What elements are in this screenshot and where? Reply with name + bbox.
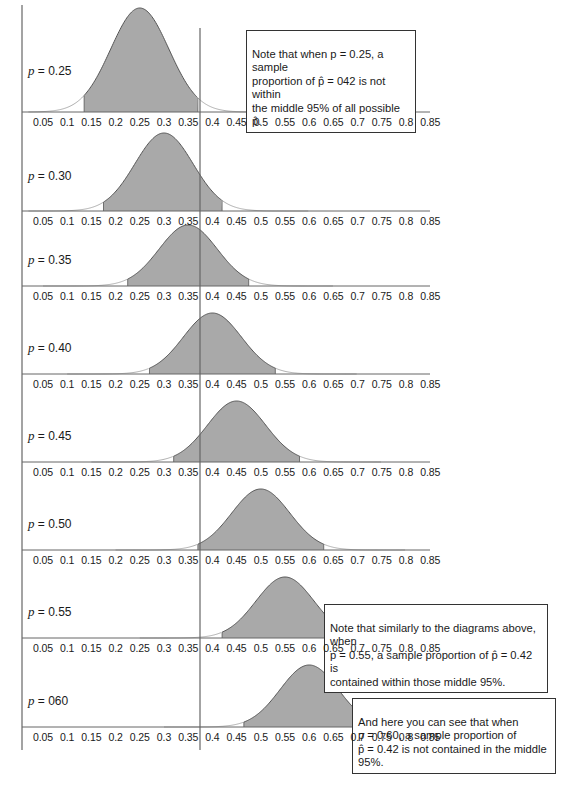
- axis-tick-label: 0.75: [372, 290, 392, 302]
- panel-label: p = 0.25: [28, 63, 72, 79]
- axis-tick-label: 0.05: [33, 378, 53, 390]
- axis-tick-label: 0.3: [157, 554, 171, 566]
- axis-tick-label: 0.2: [108, 290, 122, 302]
- axis-tick-label: 0.3: [157, 466, 171, 478]
- axis-tick-label: 0.15: [81, 215, 101, 227]
- axis-tick-label: 0.3: [157, 290, 171, 302]
- axis-tick-label: 0.6: [302, 642, 316, 654]
- shaded-middle-95-region: [128, 225, 249, 286]
- axis-tick-label: 0.75: [372, 466, 392, 478]
- axis-tick-label: 0.25: [130, 642, 150, 654]
- axis-tick-label: 0.5: [254, 554, 268, 566]
- axis-tick-label: 0.25: [130, 290, 150, 302]
- axis-tick-label: 0.35: [178, 466, 198, 478]
- panel-label: p = 0.55: [28, 604, 72, 620]
- axis-tick-label: 0.6: [302, 731, 316, 743]
- axis-tick-label: 0.75: [372, 554, 392, 566]
- axis-tick-label: 0.55: [275, 215, 295, 227]
- panel-label: p = 060: [28, 693, 68, 709]
- axis-tick-label: 0.55: [275, 642, 295, 654]
- axis-tick-label: 0.6: [302, 466, 316, 478]
- axis-tick-label: 0.7: [350, 378, 364, 390]
- axis-tick-label: 0.5: [254, 731, 268, 743]
- panel-label: p = 0.45: [28, 428, 72, 444]
- axis-tick-label: 0.85: [420, 378, 440, 390]
- axis-tick-label: 0.65: [323, 466, 343, 478]
- curve-right-tail: [324, 544, 405, 550]
- shaded-middle-95-region: [174, 401, 300, 462]
- axis-tick-label: 0.6: [302, 290, 316, 302]
- axis-tick-label: 0.85: [420, 642, 440, 654]
- curve-right-tail: [275, 368, 356, 374]
- axis-tick-label: 0.05: [33, 466, 53, 478]
- axis-tick-label: 0.45: [227, 215, 247, 227]
- axis-tick-label: 0.5: [254, 116, 268, 128]
- axis-tick-label: 0.2: [108, 731, 122, 743]
- axis-tick-label: 0.55: [275, 731, 295, 743]
- axis-tick-label: 0.35: [178, 731, 198, 743]
- axis-tick-label: 0.8: [399, 642, 413, 654]
- axis-tick-label: 0.75: [372, 116, 392, 128]
- axis-tick-label: 0.4: [205, 554, 219, 566]
- axis-tick-label: 0.5: [254, 642, 268, 654]
- axis-tick-label: 0.2: [108, 116, 122, 128]
- axis-tick-label: 0.35: [178, 642, 198, 654]
- axis-tick-label: 0.1: [60, 215, 74, 227]
- axis-tick-label: 0.7: [350, 642, 364, 654]
- axis-tick-label: 0.15: [81, 116, 101, 128]
- curve-right-tail: [249, 279, 333, 286]
- axis-tick-label: 0.7: [350, 215, 364, 227]
- axis-tick-label: 0.1: [60, 116, 74, 128]
- axis-tick-label: 0.3: [157, 116, 171, 128]
- axis-tick-label: 0.85: [420, 731, 440, 743]
- axis-tick-label: 0.65: [323, 642, 343, 654]
- axis-tick-label: 0.45: [227, 731, 247, 743]
- axis-tick-label: 0.55: [275, 466, 295, 478]
- axis-tick-label: 0.25: [130, 731, 150, 743]
- axis-tick-label: 0.5: [254, 378, 268, 390]
- axis-tick-label: 0.4: [205, 290, 219, 302]
- axis-tick-label: 0.7: [350, 290, 364, 302]
- axis-tick-label: 0.4: [205, 215, 219, 227]
- curve-left-tail: [43, 279, 127, 286]
- axis-tick-label: 0.75: [372, 731, 392, 743]
- curve-right-tail: [222, 200, 308, 211]
- axis-tick-label: 0.6: [302, 215, 316, 227]
- axis-tick-label: 0.6: [302, 378, 316, 390]
- shaded-middle-95-region: [104, 133, 223, 211]
- axis-tick-label: 0.35: [178, 554, 198, 566]
- axis-tick-label: 0.6: [302, 116, 316, 128]
- axis-tick-label: 0.35: [178, 215, 198, 227]
- axis-tick-label: 0.05: [33, 642, 53, 654]
- axis-tick-label: 0.55: [275, 116, 295, 128]
- sampling-distribution-figure: Note that when p = 0.25, a sample propor…: [0, 0, 572, 807]
- panel-label: p = 0.40: [28, 340, 72, 356]
- axis-tick-label: 0.4: [205, 378, 219, 390]
- axis-tick-label: 0.8: [399, 731, 413, 743]
- axis-tick-label: 0.05: [33, 116, 53, 128]
- axis-tick-label: 0.8: [399, 378, 413, 390]
- axis-tick-label: 0.1: [60, 378, 74, 390]
- axis-tick-label: 0.25: [130, 215, 150, 227]
- axis-tick-label: 0.45: [227, 378, 247, 390]
- axis-tick-label: 0.3: [157, 378, 171, 390]
- shaded-middle-95-region: [198, 489, 324, 550]
- axis-tick-label: 0.8: [399, 116, 413, 128]
- axis-tick-label: 0.3: [157, 215, 171, 227]
- axis-tick-label: 0.65: [323, 215, 343, 227]
- curve-left-tail: [67, 369, 148, 374]
- axis-tick-label: 0.4: [205, 116, 219, 128]
- axis-tick-label: 0.65: [323, 116, 343, 128]
- axis-tick-label: 0.65: [323, 290, 343, 302]
- axis-tick-label: 0.25: [130, 378, 150, 390]
- axis-tick-label: 0.15: [81, 378, 101, 390]
- curve-left-tail: [91, 457, 172, 462]
- panel-label: p = 0.35: [28, 252, 72, 268]
- axis-tick-label: 0.25: [130, 554, 150, 566]
- curve-right-tail: [300, 456, 381, 462]
- curve-left-tail: [116, 545, 197, 550]
- axis-tick-label: 0.85: [420, 554, 440, 566]
- axis-tick-label: 0.75: [372, 642, 392, 654]
- panel-label: p = 0.30: [28, 168, 72, 184]
- axis-tick-label: 0.85: [420, 116, 440, 128]
